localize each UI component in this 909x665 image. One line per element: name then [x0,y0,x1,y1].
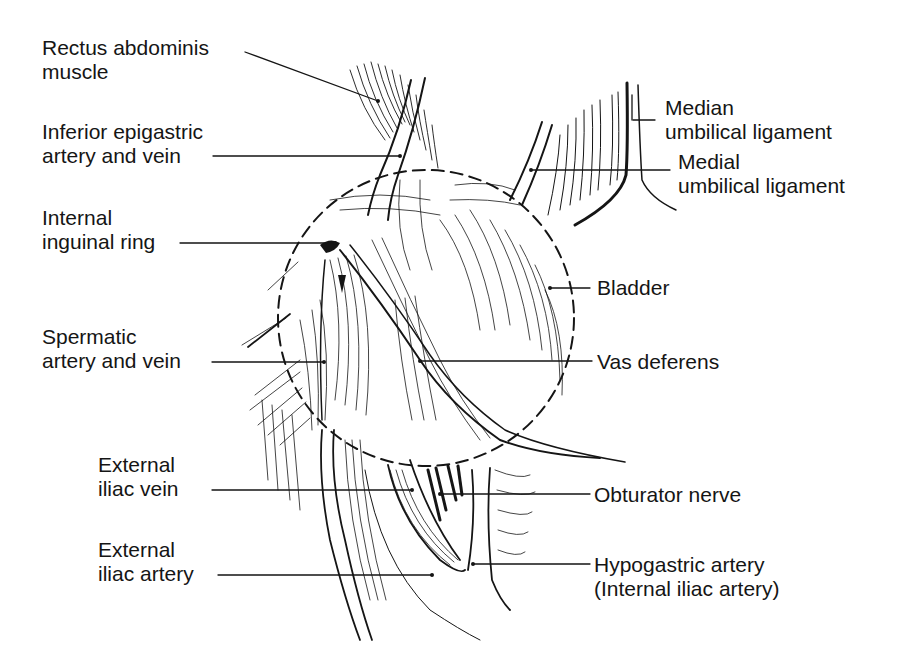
label-external-iliac-vein: External iliac vein [98,453,179,501]
hypogastric-drawing [468,468,510,610]
dashed-circle [278,170,574,466]
median-umbilical-drawing [548,83,676,225]
label-median-umbilical-ligament: Median umbilical ligament [665,96,832,144]
label-hypogastric-artery: Hypogastric artery (Internal iliac arter… [594,553,780,601]
label-vas-deferens: Vas deferens [597,350,719,374]
dissection-hatching [300,180,562,440]
label-spermatic-vessels: Spermatic artery and vein [42,325,181,373]
lateral-hatching [242,262,310,510]
label-internal-inguinal-ring: Internal inguinal ring [42,206,155,254]
label-external-iliac-artery: External iliac artery [98,538,194,586]
label-rectus-abdominis: Rectus abdominis muscle [42,36,209,84]
label-bladder: Bladder [597,276,669,300]
medial-umbilical-drawing [510,122,552,205]
label-inferior-epigastric: Inferior epigastric artery and vein [42,120,203,168]
iliac-vessels-drawing [321,430,480,640]
label-medial-umbilical-ligament: Medial umbilical ligament [678,150,845,198]
obturator-drawing [428,466,462,520]
label-obturator-nerve: Obturator nerve [594,483,741,507]
